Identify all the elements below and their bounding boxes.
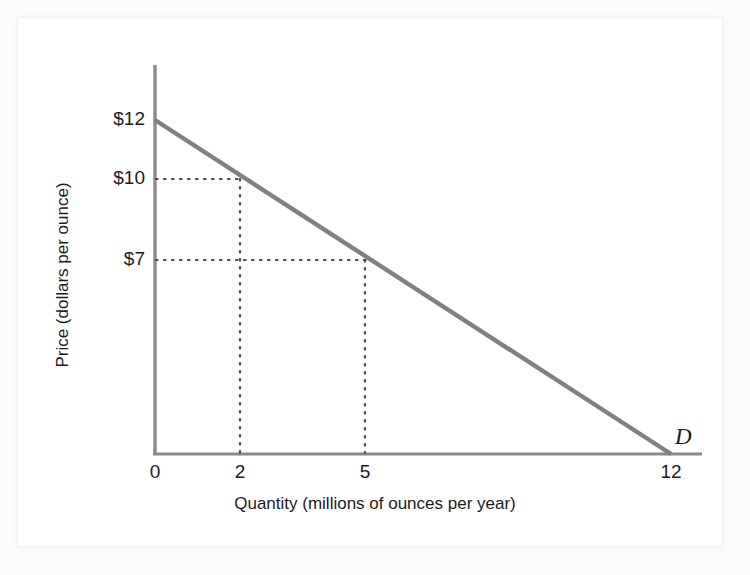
x-tick-label-5: 5 [345,461,385,483]
figure-page: $12 $10 $7 0 2 5 12 D Quantity (millions… [0,0,750,575]
y-tick-label-10: $10 [75,167,145,189]
x-tick-label-2: 2 [220,461,260,483]
y-tick-label-7: $7 [75,248,145,270]
x-tick-label-0: 0 [135,461,175,483]
y-tick-label-12: $12 [75,108,145,130]
demand-curve-chart [0,0,750,575]
demand-curve-line [155,120,671,454]
x-axis-title: Quantity (millions of ounces per year) [0,494,750,514]
x-tick-label-12: 12 [651,461,691,483]
y-axis-title: Price (dollars per ounce) [53,105,73,445]
demand-curve-label: D [675,424,692,450]
